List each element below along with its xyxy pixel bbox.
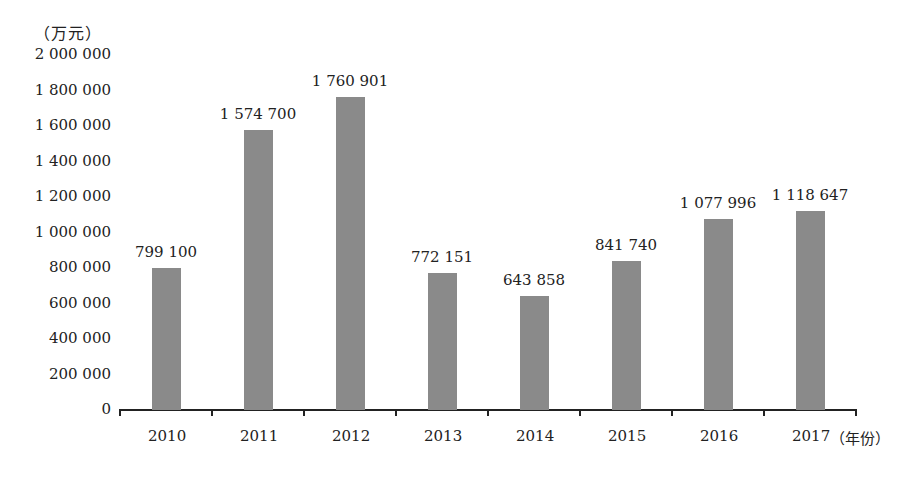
bar-2010 [152,268,181,410]
bar-value-label: 799 100 [86,243,246,261]
x-tick-label: 2010 [148,427,186,445]
y-tick-label: 400 000 [49,329,111,347]
y-tick-label: 1 600 000 [35,116,111,134]
y-axis-tick-labels: 0200 000400 000600 000800 0001 000 0001 … [0,0,111,477]
x-tick-label: 2012 [332,427,370,445]
bar-value-label: 643 858 [454,271,614,289]
bar-value-label: 1 118 647 [730,186,890,204]
y-tick-label: 2 000 000 [35,45,111,63]
y-tick-label: 600 000 [49,294,111,312]
x-tick-label: 2017 [792,427,830,445]
x-tick-label: 2014 [516,427,554,445]
bar-value-label: 841 740 [546,236,706,254]
bar-value-label: 1 574 700 [178,105,338,123]
y-tick-label: 1 800 000 [35,81,111,99]
bar-value-label: 772 151 [362,248,522,266]
x-tick-label: 2013 [424,427,462,445]
x-axis-tick [211,409,213,416]
x-axis-tick [303,409,305,416]
x-tick-label: 2015 [608,427,646,445]
bar-2015 [612,261,641,410]
x-axis-tick [119,409,121,416]
bar-2016 [704,219,733,410]
bar-2013 [428,273,457,410]
bar-value-label: 1 760 901 [270,72,430,90]
x-axis-tick [395,409,397,416]
y-tick-label: 0 [101,400,111,418]
bar-chart: （万元） 0200 000400 000600 000800 0001 000 … [0,0,903,477]
y-tick-label: 1 000 000 [35,223,111,241]
x-axis-tick [487,409,489,416]
bar-2014 [520,296,549,410]
x-axis-tick [763,409,765,416]
x-axis-tick [579,409,581,416]
x-axis-unit-label: （年份） [830,427,890,448]
x-axis-tick [855,409,857,416]
x-tick-label: 2016 [700,427,738,445]
y-tick-label: 1 400 000 [35,152,111,170]
y-tick-label: 200 000 [49,365,111,383]
bar-2012 [336,97,365,410]
y-tick-label: 1 200 000 [35,187,111,205]
x-axis-tick [671,409,673,416]
bar-2011 [244,130,273,410]
x-tick-label: 2011 [240,427,278,445]
bar-2017 [796,211,825,410]
